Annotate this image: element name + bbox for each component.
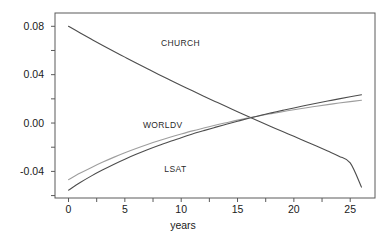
series-label-lsat: LSAT: [164, 164, 186, 174]
series-label-worldv: WORLDV: [143, 120, 183, 130]
y-tick-label: 0.08: [24, 20, 45, 32]
series-label-church: CHURCH: [161, 38, 200, 48]
y-tick-label: -0.04: [20, 165, 44, 177]
y-tick-label: 0.00: [24, 117, 45, 129]
x-tick-label: 15: [232, 203, 244, 215]
x-tick-label: 10: [175, 203, 187, 215]
x-tick-label: 25: [344, 203, 356, 215]
line-chart-figure: -0.040.000.040.08 0510152025 CHURCHWORLD…: [0, 0, 388, 238]
x-tick-label: 5: [122, 203, 128, 215]
x-tick-label: 20: [288, 203, 300, 215]
x-axis-title: years: [170, 219, 196, 231]
x-tick-label: 0: [66, 203, 72, 215]
chart-canvas: -0.040.000.040.08 0510152025 CHURCHWORLD…: [0, 0, 388, 238]
y-tick-label: 0.04: [24, 68, 45, 80]
chart-background: [0, 0, 388, 238]
